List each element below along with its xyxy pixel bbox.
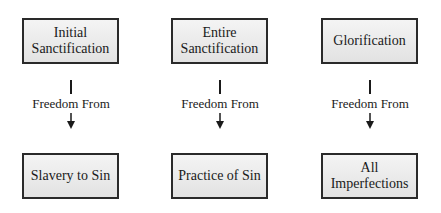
connector-line <box>219 80 221 94</box>
arrow-down-icon <box>214 113 226 129</box>
arrow-down-icon <box>65 113 77 129</box>
stage-box-glorification: Glorification <box>321 18 418 64</box>
connector-label: Freedom From <box>11 96 131 112</box>
arrow-down-icon <box>364 113 376 129</box>
result-box-slavery-to-sin: Slavery to Sin <box>22 153 119 199</box>
result-box-all-imperfections: All Imperfections <box>321 153 418 199</box>
connector-label: Freedom From <box>310 96 430 112</box>
result-box-practice-of-sin: Practice of Sin <box>171 153 268 199</box>
connector-line <box>70 80 72 94</box>
stage-box-initial-sanctification: Initial Sanctification <box>22 18 119 64</box>
connector-line <box>369 80 371 94</box>
stage-box-entire-sanctification: Entire Sanctification <box>171 18 268 64</box>
connector-label: Freedom From <box>160 96 280 112</box>
